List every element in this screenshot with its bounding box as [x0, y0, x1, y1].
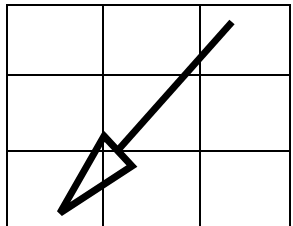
- diagram-canvas: [0, 0, 293, 226]
- grid-arrow-diagram: [0, 0, 293, 226]
- arrow: [60, 22, 232, 213]
- arrow-shaft: [119, 22, 232, 149]
